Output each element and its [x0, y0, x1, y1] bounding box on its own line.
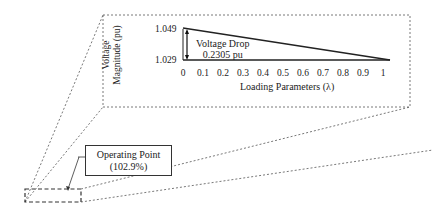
x-tick: 0.9	[357, 68, 369, 78]
voltage-drop-value: 0.2305 pu	[196, 49, 249, 60]
y-axis-label: Voltage Magnitude (pu)	[101, 25, 151, 85]
y-axis-label-line2: Magnitude (pu)	[112, 25, 123, 85]
y-tick-top: 1.049	[155, 24, 176, 34]
y-tick-bottom: 1.029	[155, 55, 176, 65]
x-tick: 0.7	[317, 68, 329, 78]
callout-arrow	[68, 157, 79, 189]
voltage-drop-label: Voltage Drop	[196, 38, 249, 49]
voltage-drop-annotation: Voltage Drop 0.2305 pu	[196, 38, 249, 60]
x-tick: 0.2	[217, 68, 229, 78]
x-tick: 0.6	[297, 68, 309, 78]
x-tick: 1	[381, 68, 386, 78]
operating-point-callout: Operating Point (102.9%)	[85, 145, 172, 176]
callout-title: Operating Point	[86, 149, 171, 161]
y-axis-label-line1: Voltage	[101, 25, 112, 85]
x-tick: 0.8	[337, 68, 349, 78]
x-tick: 0.3	[237, 68, 249, 78]
x-tick: 0.1	[197, 68, 209, 78]
diagram-canvas	[0, 0, 433, 219]
x-tick: 0.4	[257, 68, 269, 78]
callout-value: (102.9%)	[86, 161, 171, 173]
x-axis-label: Loading Parameters (λ)	[240, 81, 334, 92]
x-tick: 0	[181, 68, 186, 78]
x-tick: 0.5	[277, 68, 289, 78]
operating-region-box	[25, 189, 81, 202]
